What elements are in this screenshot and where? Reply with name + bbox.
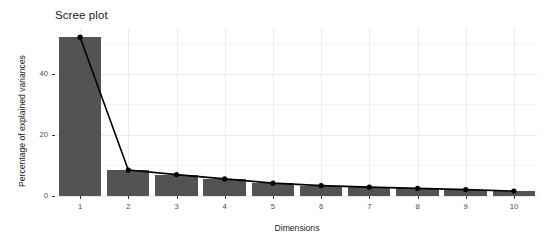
x-tick-mark [418, 196, 419, 199]
x-tick-label: 2 [108, 202, 148, 212]
data-point-marker [126, 167, 131, 172]
x-tick-mark [80, 196, 81, 199]
x-tick-mark [128, 196, 129, 199]
scree-plot-figure: Scree plot Percentage of explained varia… [0, 0, 555, 244]
trend-point-markers [78, 35, 517, 194]
x-tick-label: 6 [301, 202, 341, 212]
data-point-marker [270, 181, 275, 186]
x-tick-mark [177, 196, 178, 199]
y-axis-title: Percentage of explained variances [15, 34, 29, 209]
overlay-line-series [56, 28, 538, 196]
x-tick-mark [225, 196, 226, 199]
trend-line [80, 37, 514, 191]
x-tick-mark [369, 196, 370, 199]
chart-title: Scree plot [55, 8, 108, 22]
x-axis-title: Dimensions [56, 222, 538, 234]
y-tick-label: 20 [4, 131, 48, 139]
x-tick-label: 10 [494, 202, 534, 212]
x-tick-mark [273, 196, 274, 199]
x-tick-mark [466, 196, 467, 199]
x-tick-label: 1 [60, 202, 100, 212]
data-point-marker [174, 172, 179, 177]
x-tick-label: 4 [205, 202, 245, 212]
y-tick-mark [52, 74, 55, 75]
x-tick-mark [321, 196, 322, 199]
data-point-marker [415, 186, 420, 191]
x-tick-mark [514, 196, 515, 199]
data-point-marker [367, 185, 372, 190]
plot-panel [56, 28, 538, 196]
x-tick-label: 7 [349, 202, 389, 212]
data-point-marker [222, 176, 227, 181]
data-point-marker [319, 183, 324, 188]
data-point-marker [463, 187, 468, 192]
x-tick-label: 3 [157, 202, 197, 212]
x-tick-label: 9 [446, 202, 486, 212]
y-tick-mark [52, 135, 55, 136]
x-tick-label: 5 [253, 202, 293, 212]
y-tick-label: 40 [4, 70, 48, 78]
x-tick-label: 8 [398, 202, 438, 212]
data-point-marker [511, 189, 516, 194]
y-tick-mark [52, 196, 55, 197]
y-tick-label: 0 [4, 192, 48, 200]
data-point-marker [78, 35, 83, 40]
